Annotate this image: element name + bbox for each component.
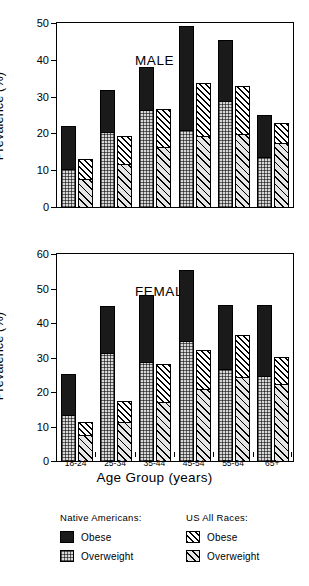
- bar-segment-obese: [258, 116, 271, 158]
- bar-group-female-25-34: [96, 254, 135, 461]
- bar-us-all-races-male-35-44: [156, 109, 171, 207]
- y-tick-label: 20: [37, 386, 49, 398]
- bar-segment-overweight: [197, 137, 210, 207]
- bar-us-all-races-male-65+: [274, 123, 289, 207]
- bar-segment-obese: [140, 296, 153, 363]
- x-axis-title: Age Group (years): [0, 470, 309, 485]
- bar-segment-overweight: [275, 385, 288, 461]
- bar-native-americans-female-25-34: [100, 306, 115, 461]
- x-tick-mark: [291, 452, 292, 457]
- bar-native-americans-male-55-64: [218, 40, 233, 207]
- x-tick-label-45-54: 45-54: [183, 458, 205, 468]
- bar-us-all-races-male-18-24: [78, 159, 93, 207]
- bar-segment-overweight: [219, 102, 232, 207]
- bar-us-all-races-female-35-44: [156, 364, 171, 461]
- plot-area-female: FEMALE 0102030405060: [56, 253, 294, 462]
- legend-swatch-na-over: [60, 550, 74, 562]
- panel-male: Prevalence (%) MALE 01020304050: [0, 8, 309, 223]
- bar-group-male-45-54: [175, 23, 214, 207]
- bar-segment-obese: [275, 358, 288, 385]
- bar-native-americans-female-18-24: [61, 374, 76, 461]
- x-tick-label-18-24: 18-24: [65, 458, 87, 468]
- bar-segment-overweight: [236, 135, 249, 207]
- bar-segment-overweight: [197, 390, 210, 461]
- bar-segment-overweight: [79, 180, 92, 207]
- plot-area-male: MALE 01020304050: [56, 22, 294, 208]
- x-tick-mark: [174, 452, 175, 457]
- bar-native-americans-male-25-34: [100, 90, 115, 207]
- bar-us-all-races-female-65+: [274, 357, 289, 461]
- bar-segment-obese: [79, 160, 92, 180]
- bar-group-male-25-34: [96, 23, 135, 207]
- bar-segment-overweight: [258, 377, 271, 461]
- bar-us-all-races-male-45-54: [196, 83, 211, 207]
- x-tick-mark: [56, 452, 57, 457]
- bar-native-americans-male-45-54: [179, 26, 194, 207]
- bar-segment-overweight: [101, 133, 114, 207]
- bar-segment-obese: [101, 307, 114, 354]
- y-tick-label: 60: [37, 248, 49, 260]
- bar-segment-obese: [101, 91, 114, 133]
- bar-segment-overweight: [275, 144, 288, 207]
- x-tick-label-55-64: 55-64: [222, 458, 244, 468]
- bar-group-male-65+: [254, 23, 293, 207]
- legend-column-us-all-races: US All Races:ObeseOverweight: [186, 512, 260, 569]
- legend: Native Americans:ObeseOverweightUS All R…: [0, 512, 309, 582]
- y-tick-label: 40: [37, 54, 49, 66]
- bar-segment-obese: [62, 127, 75, 169]
- bar-segment-obese: [140, 68, 153, 110]
- bar-group-male-35-44: [136, 23, 175, 207]
- bar-segment-obese: [157, 365, 170, 403]
- bar-us-all-races-male-25-34: [117, 136, 132, 207]
- y-tick-label: 10: [37, 421, 49, 433]
- y-axis-label-female: Prevalence (%): [0, 311, 6, 399]
- bar-segment-obese: [197, 351, 210, 390]
- legend-heading: US All Races:: [186, 512, 260, 523]
- x-tick-mark: [95, 452, 96, 457]
- bar-segment-overweight: [101, 354, 114, 461]
- legend-item-na-obese: Obese: [60, 531, 142, 543]
- y-axis-label-male: Prevalence (%): [0, 71, 6, 159]
- bar-segment-obese: [236, 336, 249, 377]
- bar-segment-overweight: [180, 131, 193, 207]
- bar-segment-overweight: [258, 158, 271, 208]
- y-tick-label: 50: [37, 283, 49, 295]
- bar-native-americans-female-65+: [257, 305, 272, 461]
- bar-native-americans-female-45-54: [179, 270, 194, 461]
- bar-native-americans-female-35-44: [139, 295, 154, 461]
- bar-segment-obese: [118, 402, 131, 423]
- bar-segment-obese: [219, 306, 232, 370]
- x-tick-mark: [135, 452, 136, 457]
- bar-segment-obese: [62, 375, 75, 416]
- bar-us-all-races-male-55-64: [235, 86, 250, 207]
- bar-segment-obese: [180, 27, 193, 131]
- y-tick-mark: [51, 207, 57, 208]
- legend-column-native-americans: Native Americans:ObeseOverweight: [60, 512, 142, 569]
- bar-segment-obese: [118, 137, 131, 166]
- bars-female: [57, 254, 293, 461]
- x-tick-label-35-44: 35-44: [143, 458, 165, 468]
- bar-group-female-65+: [254, 254, 293, 461]
- legend-item-us-over: Overweight: [186, 550, 260, 562]
- bar-segment-overweight: [236, 378, 249, 462]
- bar-segment-obese: [157, 110, 170, 148]
- bar-native-americans-female-55-64: [218, 305, 233, 461]
- legend-label: Obese: [81, 532, 111, 543]
- bar-segment-overweight: [140, 363, 153, 461]
- legend-label: Overweight: [207, 551, 260, 562]
- x-tick-mark: [213, 452, 214, 457]
- bar-group-male-18-24: [57, 23, 96, 207]
- y-tick-label: 20: [37, 127, 49, 139]
- bar-segment-overweight: [118, 165, 131, 207]
- x-tick-label-65+: 65+: [265, 458, 279, 468]
- y-tick-label: 10: [37, 164, 49, 176]
- bar-segment-obese: [236, 87, 249, 135]
- bar-segment-overweight: [140, 111, 153, 207]
- bar-group-female-18-24: [57, 254, 96, 461]
- x-tick-mark: [253, 452, 254, 457]
- y-tick-label: 30: [37, 91, 49, 103]
- bar-group-female-55-64: [214, 254, 253, 461]
- x-tick-label-25-34: 25-34: [104, 458, 126, 468]
- y-tick-label: 0: [43, 455, 49, 467]
- legend-swatch-us-over: [186, 550, 200, 562]
